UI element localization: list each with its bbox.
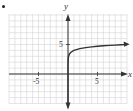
x-axis-label: x xyxy=(127,69,132,79)
y-tick-label-5: 5 xyxy=(59,40,63,49)
function-graph: y x -5 5 5 xyxy=(0,0,133,111)
x-tick-label-5: 5 xyxy=(95,77,99,86)
x-tick-label-neg5: -5 xyxy=(33,77,39,86)
y-axis-label: y xyxy=(63,1,68,11)
curve-arrow-icon xyxy=(124,42,130,47)
